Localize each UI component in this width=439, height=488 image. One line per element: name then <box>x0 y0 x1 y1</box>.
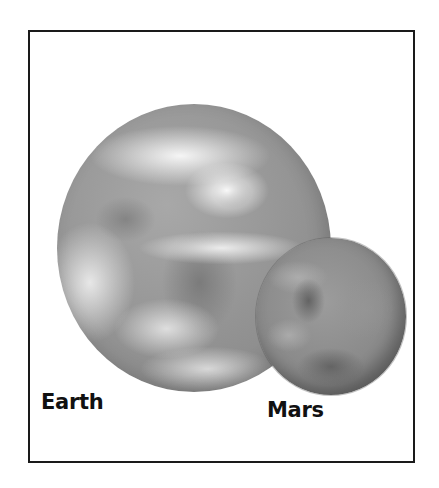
mars-globe-image <box>256 238 406 395</box>
mars-label: Mars <box>267 400 324 421</box>
earth-label: Earth <box>41 392 103 413</box>
